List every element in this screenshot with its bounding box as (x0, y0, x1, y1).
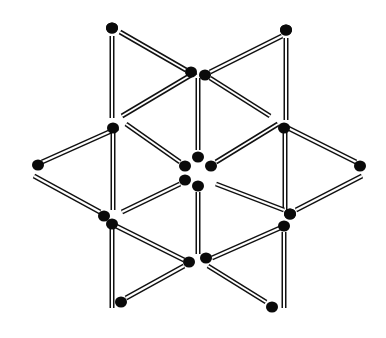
matchstick (216, 124, 278, 162)
match-head-icon (354, 161, 366, 172)
match-head-icon (115, 297, 127, 308)
match-head-icon (185, 67, 197, 78)
match-head-icon (278, 123, 290, 134)
matchstick (122, 72, 196, 116)
match-head-icon (199, 70, 211, 81)
match-head-icon (192, 152, 204, 163)
matchstick (212, 228, 280, 258)
match-head-icon (192, 181, 204, 192)
matchstick (216, 184, 284, 210)
matchstick (126, 124, 180, 162)
matchstick (116, 226, 184, 260)
matchstick (34, 176, 100, 212)
match-head-icon (32, 160, 44, 171)
match-head-icon (205, 161, 217, 172)
match-head-icon (179, 161, 191, 172)
match-head-icon (280, 25, 292, 36)
matchstick (122, 184, 180, 212)
matchstick (126, 266, 184, 298)
matchstick (210, 36, 282, 72)
matchstick-figure (0, 0, 386, 338)
matchstick (210, 78, 270, 116)
match-head-icon (200, 253, 212, 264)
match-head-icon (107, 123, 119, 134)
matchstick (296, 176, 362, 210)
matchstick-bodies (34, 32, 362, 308)
match-head-icon (284, 209, 296, 220)
match-head-icon (266, 302, 278, 313)
matchstick (120, 32, 186, 70)
match-head-icon (106, 219, 118, 230)
match-head-icon (183, 257, 195, 268)
matchstick (42, 128, 118, 162)
matchstick (288, 128, 356, 162)
match-head-icon (106, 23, 118, 34)
matchstick (208, 266, 266, 302)
hexagram-diagram (0, 0, 386, 338)
matchstick-heads (32, 23, 366, 313)
match-head-icon (278, 221, 290, 232)
match-head-icon (179, 175, 191, 186)
